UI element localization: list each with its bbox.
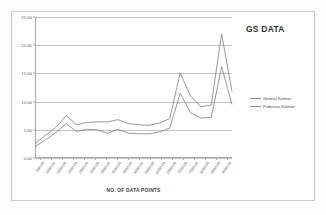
plot-area: 0.005.0010.0015.0020.0025.00 xyxy=(35,17,232,158)
x-axis-tick-mark xyxy=(172,158,173,160)
y-axis-tick-label: 25.00 xyxy=(21,15,32,20)
chart-legend: General Kalman Probenius Kalman xyxy=(250,95,312,112)
x-axis-tick-mark xyxy=(62,158,63,160)
x-axis-tick-mark xyxy=(128,158,129,160)
y-axis-tick-mark xyxy=(33,17,35,18)
x-axis-tick-mark xyxy=(84,158,85,160)
legend-label: General Kalman xyxy=(263,96,291,101)
x-axis-tick-mark xyxy=(95,158,96,160)
y-axis-tick-mark xyxy=(33,101,35,102)
x-axis-tick-mark xyxy=(73,158,74,160)
x-axis-title: NO. OF DATA POINTS xyxy=(35,188,232,193)
x-axis-tick-mark xyxy=(227,158,228,160)
x-axis-tick-mark xyxy=(194,158,195,160)
chart-figure: GS DATA 0.005.0010.0015.0020.0025.00 500… xyxy=(0,0,326,215)
gridline xyxy=(35,158,232,159)
x-axis-tick-mark xyxy=(106,158,107,160)
legend-label: Probenius Kalman xyxy=(263,104,295,109)
y-axis-tick-mark xyxy=(33,73,35,74)
chart-title: GS DATA xyxy=(246,24,285,34)
legend-item-general-kalman: General Kalman xyxy=(250,95,312,101)
x-axis-tick-mark xyxy=(139,158,140,160)
y-axis-tick-label: 20.00 xyxy=(21,43,32,48)
y-axis-tick-label: 10.00 xyxy=(21,99,32,104)
series-lines xyxy=(35,17,232,158)
x-axis-tick-mark xyxy=(117,158,118,160)
x-axis-tick-mark xyxy=(150,158,151,160)
y-axis-tick-label: 0.00 xyxy=(24,156,32,161)
x-axis-tick-mark xyxy=(216,158,217,160)
y-axis-tick-label: 5.00 xyxy=(24,127,32,132)
x-axis-tick-mark xyxy=(161,158,162,160)
x-axis-tick-mark xyxy=(183,158,184,160)
legend-swatch-icon xyxy=(250,106,261,107)
legend-item-probenius-kalman: Probenius Kalman xyxy=(250,104,312,110)
y-axis-tick-mark xyxy=(33,158,35,159)
legend-swatch-icon xyxy=(250,98,261,99)
y-axis-tick-mark xyxy=(33,129,35,130)
y-axis-tick-label: 15.00 xyxy=(21,71,32,76)
series-line xyxy=(35,34,232,143)
x-axis-tick-mark xyxy=(205,158,206,160)
y-axis-tick-mark xyxy=(33,45,35,46)
